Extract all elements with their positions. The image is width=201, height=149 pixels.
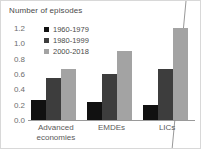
y-axis: 0.00.20.40.60.81.01.2	[1, 1, 25, 149]
y-axis-tick-label: 1.2	[14, 24, 25, 33]
bar[interactable]	[87, 102, 102, 120]
bar[interactable]	[173, 28, 188, 120]
y-axis-tick-label: 0.6	[14, 70, 25, 79]
bar[interactable]	[31, 100, 46, 120]
x-axis-tick-label: LICs	[135, 123, 199, 133]
chart-figure: Number of episodes 0.00.20.40.60.81.01.2…	[0, 0, 201, 149]
x-axis-tick-label: EMDEs	[80, 123, 144, 133]
bar[interactable]	[61, 69, 76, 120]
bar[interactable]	[143, 105, 158, 120]
bar-group	[87, 28, 132, 120]
y-axis-tick-label: 0.8	[14, 54, 25, 63]
x-axis-tick-label: Advanced economies	[24, 123, 88, 143]
bar[interactable]	[102, 74, 117, 120]
bar[interactable]	[117, 51, 132, 120]
y-axis-tick-label: 0.2	[14, 100, 25, 109]
y-axis-tick-label: 1.0	[14, 39, 25, 48]
bar[interactable]	[46, 78, 61, 120]
y-axis-tick-label: 0.4	[14, 85, 25, 94]
bar[interactable]	[158, 69, 173, 120]
bar-group	[143, 28, 188, 120]
bar-group	[31, 28, 76, 120]
